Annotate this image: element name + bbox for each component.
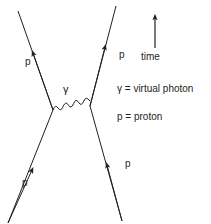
- proton-label-lower-right: p: [125, 159, 131, 169]
- time-axis-label: time: [141, 52, 160, 62]
- proton-label-upper-right: p: [119, 50, 125, 60]
- legend-entry-proton: p = proton: [117, 112, 162, 122]
- proton-label-lower-left: p: [22, 178, 28, 188]
- feynman-diagram: p p p p γ time γ = virtual photon p = pr…: [0, 0, 211, 224]
- proton-line-upper-right: [90, 6, 116, 106]
- proton-line-lower-left: [8, 110, 53, 223]
- legend-entry-photon: γ = virtual photon: [117, 84, 193, 94]
- virtual-photon-label: γ: [63, 84, 69, 95]
- proton-line-upper-left: [18, 11, 53, 110]
- feynman-diagram-canvas: [0, 0, 211, 224]
- virtual-photon-wavy-line: [53, 98, 90, 110]
- proton-line-lower-right: [90, 106, 122, 221]
- proton-label-upper-left: p: [25, 57, 31, 67]
